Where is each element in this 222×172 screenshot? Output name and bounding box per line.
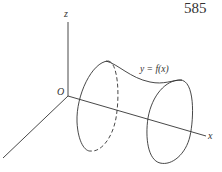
right-cross-section: [147, 80, 193, 163]
origin-label: O: [57, 86, 64, 97]
x-axis: [68, 96, 206, 136]
x-axis-label: x: [208, 130, 212, 141]
z-axis-label: z: [64, 8, 68, 19]
left-cross-section-back: [91, 61, 118, 151]
curve-label: y = f(x): [140, 64, 169, 74]
surface-of-revolution-figure: [0, 0, 222, 172]
y-axis: [3, 96, 68, 158]
